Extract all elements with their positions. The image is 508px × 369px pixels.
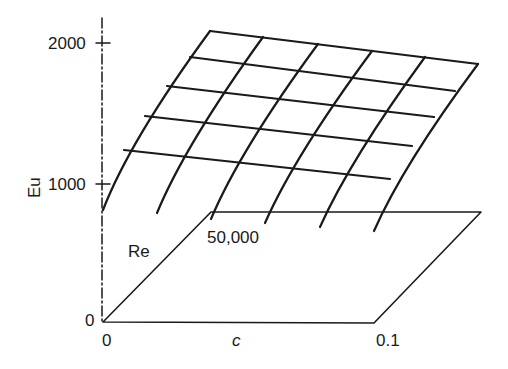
grid-columns [103, 31, 478, 231]
c-tick-label-0: 0 [102, 332, 111, 349]
re-axis-label: Re [128, 243, 150, 260]
re-tick-label: 50,000 [207, 229, 259, 246]
tick-label-2000: 2000 [48, 35, 86, 52]
tick-label-eu-0: 0 [85, 312, 94, 329]
eu-axis-label: Eu [26, 177, 43, 198]
tick-label-1000: 1000 [48, 176, 86, 193]
base-plane [103, 212, 481, 323]
c-axis-label: c [232, 332, 241, 349]
c-tick-label-0-1: 0.1 [376, 332, 400, 349]
